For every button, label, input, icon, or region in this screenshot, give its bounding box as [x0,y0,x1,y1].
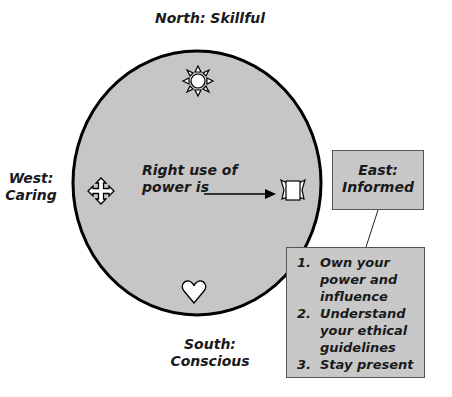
south-label: South: Conscious [160,336,260,370]
scroll-icon [281,180,305,200]
list-item-text: Own your power and influence [320,255,397,304]
center-line2: power is [142,179,272,196]
list-item: 1.Own your power and influence [293,254,420,305]
informed-list-box: 1.Own your power and influence 2.Underst… [286,247,425,378]
east-box: East: Informed [332,150,424,210]
list-item-number: 1. [297,254,311,271]
list-item-text: Understand your ethical guidelines [320,306,407,355]
south-label-line1: South: [160,336,260,353]
medicine-wheel-diagram: North: Skillful West: Caring South: Cons… [0,0,452,397]
list-item: 3.Stay present [293,356,420,373]
east-label: East: Informed [333,151,423,196]
list-item-text: Stay present [320,357,414,372]
west-label-line1: West: [0,170,62,187]
north-label: North: Skillful [145,10,275,27]
center-line1: Right use of [142,162,272,179]
informed-list: 1.Own your power and influence 2.Underst… [293,254,420,373]
sun-icon [183,66,213,96]
list-item-number: 3. [297,356,311,373]
center-statement: Right use of power is [142,162,272,196]
west-label-line2: Caring [0,187,62,204]
west-label: West: Caring [0,170,62,204]
list-item-number: 2. [297,305,311,322]
connector-line [366,210,378,247]
east-label-line2: Informed [333,179,423,196]
east-label-line1: East: [333,162,423,179]
south-label-line2: Conscious [160,353,260,370]
list-item: 2.Understand your ethical guidelines [293,305,420,356]
